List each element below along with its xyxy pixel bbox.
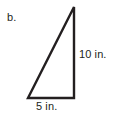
geometry-figure: b. 10 in. 5 in. xyxy=(0,0,113,115)
base-leg-label: 5 in. xyxy=(36,100,57,112)
triangle-outline xyxy=(28,7,74,98)
vertical-leg-label: 10 in. xyxy=(79,48,107,60)
